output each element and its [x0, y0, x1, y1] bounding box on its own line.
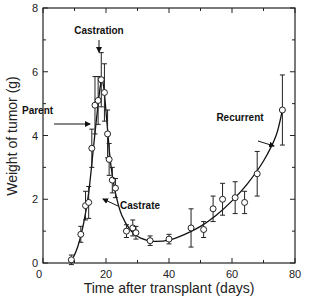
open-circle-marker [101, 89, 107, 95]
open-circle-marker [201, 227, 207, 233]
open-circle-marker [109, 177, 115, 183]
data-point [89, 129, 95, 167]
data-points [68, 53, 285, 265]
open-circle-marker [254, 171, 260, 177]
y-tick-label: 2 [32, 193, 38, 205]
y-tick-label: 6 [32, 66, 38, 78]
open-circle-marker [242, 199, 248, 205]
open-circle-marker [133, 230, 139, 236]
open-circle-marker [279, 107, 285, 113]
data-point [254, 151, 260, 196]
open-circle-marker [86, 199, 92, 205]
annotation-arrow [258, 141, 274, 146]
open-circle-marker [112, 185, 118, 191]
data-point [201, 222, 207, 238]
open-circle-marker [106, 156, 112, 162]
open-circle-marker [188, 225, 194, 231]
x-axis-title: Time after transplant (days) [84, 280, 255, 296]
open-circle-marker [89, 145, 95, 151]
data-point [210, 196, 216, 222]
open-circle-marker [232, 195, 238, 201]
data-point [232, 182, 238, 214]
annotation-arrow [103, 199, 118, 206]
open-circle-marker [98, 77, 104, 83]
data-point [220, 183, 226, 215]
open-circle-marker [220, 196, 226, 202]
tumor-weight-chart: 02040608002468 CastrationParentCastrateR… [0, 0, 309, 300]
open-circle-marker [166, 236, 172, 242]
open-circle-marker [210, 206, 216, 212]
open-circle-marker [105, 131, 111, 137]
annotation-label: Recurrent [216, 112, 264, 123]
smooth-curve [71, 80, 282, 261]
data-point [166, 234, 172, 244]
data-point [92, 77, 98, 134]
x-tick-label: 40 [163, 268, 175, 280]
x-tick-label: 0 [36, 268, 42, 280]
data-point [242, 191, 248, 213]
x-tick-label: 60 [226, 268, 238, 280]
plot-frame [43, 8, 295, 263]
y-tick-label: 0 [32, 257, 38, 269]
annotation-label: Castrate [120, 200, 160, 211]
open-circle-marker [147, 238, 153, 244]
open-circle-marker [95, 97, 101, 103]
data-point [279, 75, 285, 145]
y-tick-label: 8 [32, 2, 38, 14]
x-tick-label: 20 [100, 268, 112, 280]
annotation-label: Castration [74, 25, 123, 36]
annotations: CastrationParentCastrateRecurrent [22, 25, 274, 211]
fit-curve [71, 80, 282, 261]
y-tick-label: 4 [32, 130, 38, 142]
open-circle-marker [123, 228, 129, 234]
data-point [147, 236, 153, 246]
open-circle-marker [78, 231, 84, 237]
y-axis-title: Weight of tumor (g) [4, 76, 20, 196]
open-circle-marker [68, 257, 74, 263]
data-point [188, 209, 194, 247]
annotation-label: Parent [22, 105, 54, 116]
x-tick-label: 80 [289, 268, 301, 280]
